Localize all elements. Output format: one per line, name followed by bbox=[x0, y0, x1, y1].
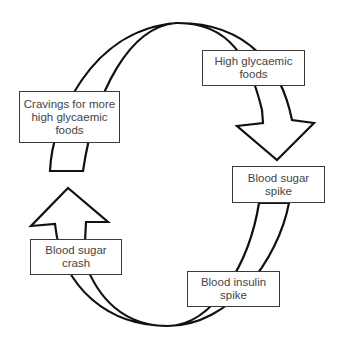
node-label: Blood insulin spike bbox=[191, 276, 276, 302]
node-label: Blood sugar spike bbox=[236, 172, 321, 198]
node-cravings: Cravings for more high glycaemic foods bbox=[19, 91, 120, 143]
node-label: High glycaemic foods bbox=[206, 55, 301, 81]
diagram-canvas: High glycaemic foods Cravings for more h… bbox=[0, 0, 342, 348]
node-blood-sugar-spike: Blood sugar spike bbox=[232, 166, 325, 203]
node-label: Blood sugar crash bbox=[34, 244, 118, 270]
node-high-glycaemic-foods: High glycaemic foods bbox=[202, 50, 305, 86]
node-blood-sugar-crash: Blood sugar crash bbox=[30, 239, 122, 275]
node-blood-insulin-spike: Blood insulin spike bbox=[187, 271, 280, 307]
node-label: Cravings for more high glycaemic foods bbox=[23, 98, 116, 137]
